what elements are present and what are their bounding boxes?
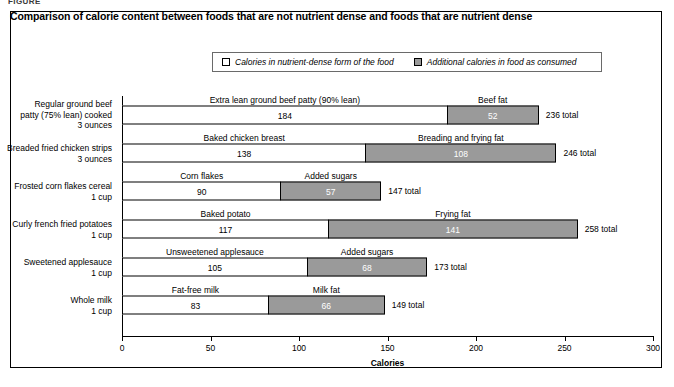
x-axis-tick xyxy=(388,336,389,341)
figure-footnote xyxy=(60,375,660,385)
segment-value: 108 xyxy=(454,148,468,158)
category-label-line: 1 cup xyxy=(0,267,112,278)
stacked-bar: Corn flakes90Added sugars57 xyxy=(122,182,382,201)
bar-segment-additional: Breading and frying fat108 xyxy=(365,144,556,163)
segment-label-nutrient-dense: Baked chicken breast xyxy=(123,133,365,143)
x-axis-title: Calories xyxy=(122,358,653,368)
bar-segment-nutrient-dense: Fat-free milk83 xyxy=(122,296,269,315)
x-axis-tick xyxy=(211,336,212,341)
bar-segment-nutrient-dense: Extra lean ground beef patty (90% lean)1… xyxy=(122,106,448,125)
segment-label-nutrient-dense: Extra lean ground beef patty (90% lean) xyxy=(123,95,447,105)
category-label: Regular ground beefpatty (75% lean) cook… xyxy=(0,99,112,131)
x-axis-tick-label: 300 xyxy=(646,343,660,353)
segment-value: 52 xyxy=(488,110,497,120)
bar-segment-additional: Added sugars57 xyxy=(280,182,381,201)
bar-segment-nutrient-dense: Baked potato117 xyxy=(122,220,329,239)
bar-row: Frosted corn flakes cereal1 cupCorn flak… xyxy=(0,172,674,210)
bar-row: Breaded fried chicken strips3 ouncesBake… xyxy=(0,134,674,172)
chart-legend: Calories in nutrient-dense form of the f… xyxy=(212,52,602,72)
segment-label-nutrient-dense: Corn flakes xyxy=(123,171,280,181)
x-axis-tick-label: 250 xyxy=(557,343,571,353)
x-axis-tick xyxy=(476,336,477,341)
stacked-bar: Unsweetened applesauce105Added sugars68 xyxy=(122,258,428,277)
category-label: Frosted corn flakes cereal1 cup xyxy=(0,181,112,202)
row-total-label: 246 total xyxy=(563,148,596,158)
category-label-line: Sweetened applesauce xyxy=(0,257,112,268)
x-axis-tick-label: 50 xyxy=(206,343,215,353)
row-total-label: 147 total xyxy=(388,186,421,196)
category-label-line: 1 cup xyxy=(0,305,112,316)
segment-label-nutrient-dense: Baked potato xyxy=(123,209,328,219)
segment-value: 105 xyxy=(208,262,222,272)
x-axis-tick-label: 200 xyxy=(469,343,483,353)
x-axis-tick-label: 0 xyxy=(120,343,125,353)
segment-value: 184 xyxy=(278,110,292,120)
category-label-line: 1 cup xyxy=(0,191,112,202)
bar-segment-nutrient-dense: Baked chicken breast138 xyxy=(122,144,366,163)
segment-label-additional: Added sugars xyxy=(281,171,380,181)
legend-swatch-gray-icon xyxy=(414,58,422,66)
segment-value: 90 xyxy=(197,186,206,196)
segment-value: 68 xyxy=(362,262,371,272)
bar-segment-nutrient-dense: Unsweetened applesauce105 xyxy=(122,258,308,277)
segment-label-nutrient-dense: Unsweetened applesauce xyxy=(123,247,307,257)
stacked-bar: Fat-free milk83Milk fat66 xyxy=(122,296,386,315)
category-label-line: 1 cup xyxy=(0,229,112,240)
bar-row: Regular ground beefpatty (75% lean) cook… xyxy=(0,96,674,134)
category-label: Whole milk1 cup xyxy=(0,295,112,316)
bar-row: Sweetened applesauce1 cupUnsweetened app… xyxy=(0,248,674,286)
x-axis-tick-label: 150 xyxy=(380,343,394,353)
segment-value: 66 xyxy=(322,300,331,310)
category-label-line: Frosted corn flakes cereal xyxy=(0,181,112,192)
category-label-line: Curly french fried potatoes xyxy=(0,219,112,230)
row-total-label: 258 total xyxy=(585,224,618,234)
category-label-line: Regular ground beef xyxy=(0,99,112,110)
category-label-line: Breaded fried chicken strips xyxy=(0,143,112,154)
category-label: Sweetened applesauce1 cup xyxy=(0,257,112,278)
bar-segment-additional: Frying fat141 xyxy=(328,220,578,239)
segment-label-nutrient-dense: Fat-free milk xyxy=(123,285,268,295)
category-label-line: 3 ounces xyxy=(0,120,112,131)
row-total-label: 149 total xyxy=(392,300,425,310)
stacked-bar: Baked potato117Frying fat141 xyxy=(122,220,579,239)
bar-segment-additional: Milk fat66 xyxy=(268,296,385,315)
chart-title: Comparison of calorie content between fo… xyxy=(10,10,664,23)
stacked-bar: Baked chicken breast138Breading and fryi… xyxy=(122,144,557,163)
legend-label-nutrient-dense: Calories in nutrient-dense form of the f… xyxy=(235,57,394,67)
segment-label-additional: Breading and frying fat xyxy=(366,133,555,143)
bar-segment-additional: Added sugars68 xyxy=(307,258,427,277)
legend-item-nutrient-dense: Calories in nutrient-dense form of the f… xyxy=(222,57,394,67)
row-total-label: 236 total xyxy=(546,110,579,120)
x-axis-tick xyxy=(653,336,654,341)
segment-label-additional: Frying fat xyxy=(329,209,577,219)
x-axis-tick xyxy=(122,336,123,341)
x-axis-tick-label: 100 xyxy=(292,343,306,353)
figure-number-label: FIGURE xyxy=(8,0,41,6)
category-label: Breaded fried chicken strips3 ounces xyxy=(0,143,112,164)
x-axis-tick xyxy=(299,336,300,341)
bar-row: Whole milk1 cupFat-free milk83Milk fat66… xyxy=(0,286,674,324)
category-label-line: Whole milk xyxy=(0,295,112,306)
segment-label-additional: Beef fat xyxy=(448,95,538,105)
bar-row: Curly french fried potatoes1 cupBaked po… xyxy=(0,210,674,248)
category-label: Curly french fried potatoes1 cup xyxy=(0,219,112,240)
x-axis-tick xyxy=(565,336,566,341)
row-total-label: 173 total xyxy=(434,262,467,272)
bar-segment-nutrient-dense: Corn flakes90 xyxy=(122,182,281,201)
legend-item-additional: Additional calories in food as consumed xyxy=(414,57,577,67)
stacked-bar: Extra lean ground beef patty (90% lean)1… xyxy=(122,106,540,125)
legend-label-additional: Additional calories in food as consumed xyxy=(427,57,577,67)
segment-label-additional: Added sugars xyxy=(308,247,426,257)
bar-rows-container: Regular ground beefpatty (75% lean) cook… xyxy=(0,96,674,324)
category-label-line: 3 ounces xyxy=(0,153,112,164)
category-label-line: patty (75% lean) cooked xyxy=(0,110,112,121)
legend-swatch-white-icon xyxy=(222,58,230,66)
segment-value: 117 xyxy=(219,224,233,234)
segment-value: 83 xyxy=(191,300,200,310)
segment-value: 141 xyxy=(446,224,460,234)
bar-segment-additional: Beef fat52 xyxy=(447,106,539,125)
segment-value: 57 xyxy=(326,186,335,196)
segment-value: 138 xyxy=(237,148,251,158)
segment-label-additional: Milk fat xyxy=(269,285,384,295)
